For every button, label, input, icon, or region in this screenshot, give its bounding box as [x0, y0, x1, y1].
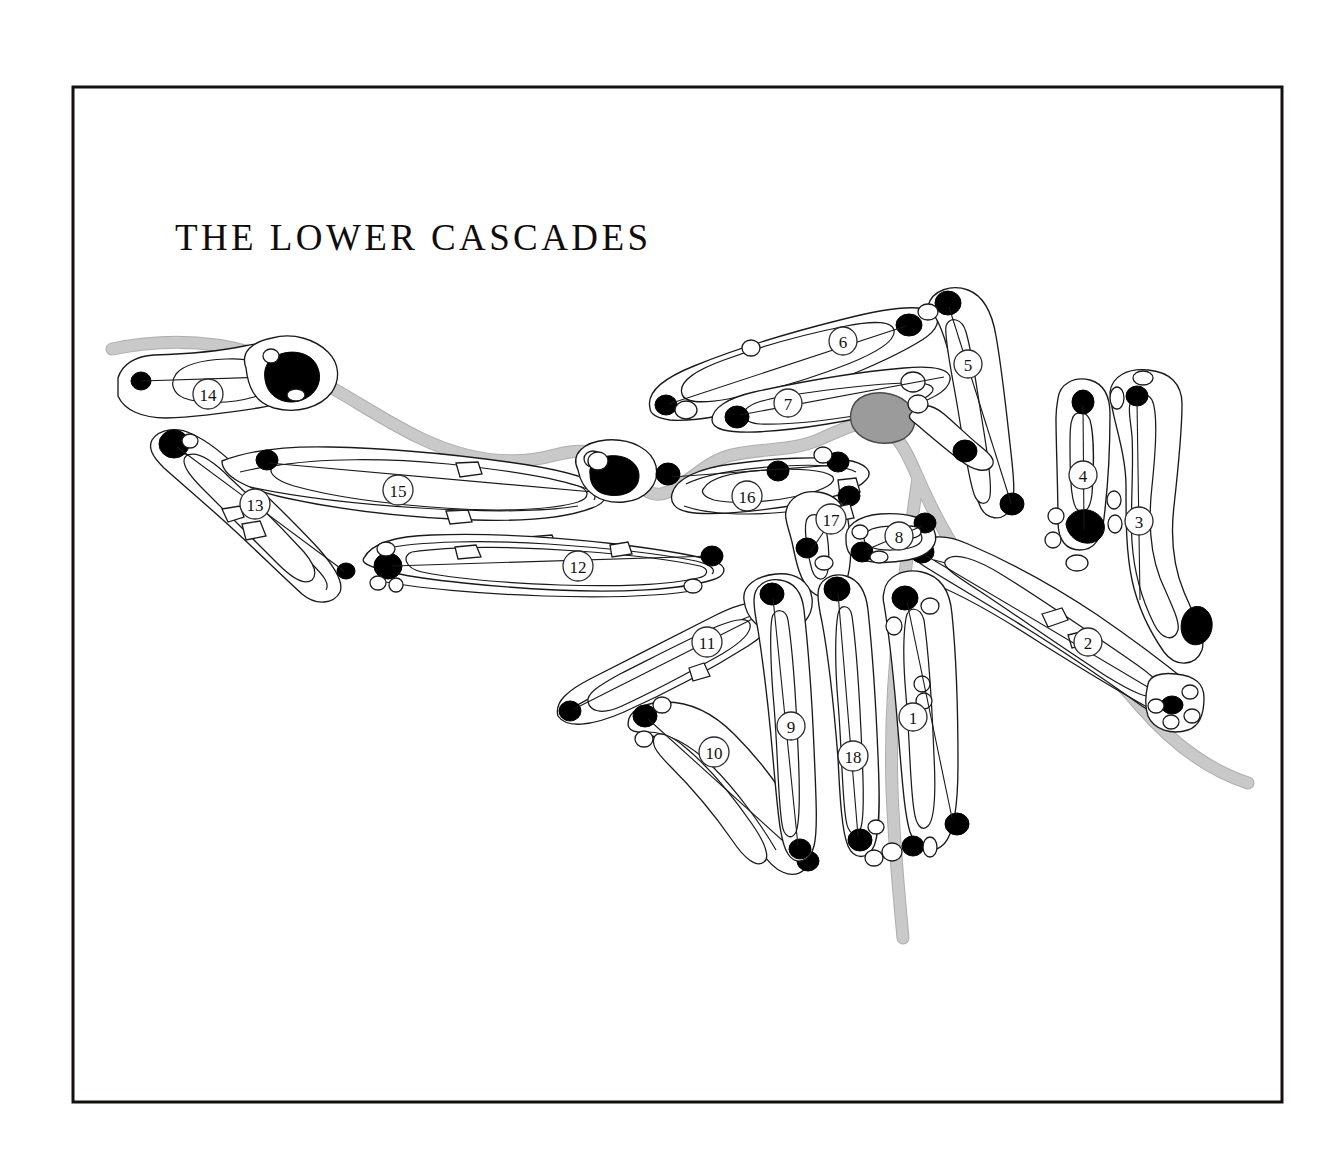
hole-marker-3[interactable]: 3: [1125, 507, 1153, 535]
hole-marker-label: 3: [1135, 513, 1144, 532]
hole-marker-4[interactable]: 4: [1069, 461, 1097, 489]
hole-marker-14[interactable]: 14: [193, 379, 223, 409]
hole-marker-label: 1: [909, 709, 918, 728]
hole-marker-label: 4: [1079, 467, 1088, 486]
golf-course-map: THE LOWER CASCADES: [0, 0, 1344, 1166]
bunker-dark: [838, 486, 860, 506]
hole-marker-label: 6: [839, 333, 848, 352]
hole-marker-label: 12: [570, 558, 587, 577]
bunker-dark: [725, 406, 749, 428]
hole-marker-6[interactable]: 6: [829, 327, 857, 355]
hole-marker-18[interactable]: 18: [838, 741, 868, 771]
hole-marker-2[interactable]: 2: [1074, 628, 1102, 656]
hole-marker-1[interactable]: 1: [899, 703, 927, 731]
hole-marker-11[interactable]: 11: [692, 627, 722, 657]
hole-marker-17[interactable]: 17: [816, 504, 846, 534]
bunker-dark: [892, 586, 918, 610]
hole-marker-12[interactable]: 12: [563, 551, 593, 581]
bunker-dark: [655, 395, 677, 415]
bunker-dark: [256, 450, 278, 470]
water-hazard-pond: [850, 393, 914, 443]
hole-marker-7[interactable]: 7: [774, 389, 802, 417]
hole-marker-label: 7: [784, 395, 793, 414]
bunker-dark: [935, 291, 961, 315]
hole-marker-9[interactable]: 9: [777, 712, 805, 740]
bunker-dark: [559, 701, 581, 721]
hole-marker-16[interactable]: 16: [732, 481, 762, 511]
hole-marker-label: 17: [823, 511, 841, 530]
hole-marker-10[interactable]: 10: [699, 737, 729, 767]
bunker-dark: [824, 577, 850, 601]
hole-marker-15[interactable]: 15: [383, 475, 413, 505]
hole-marker-label: 9: [787, 718, 796, 737]
hole-marker-8[interactable]: 8: [885, 522, 913, 550]
hole-marker-label: 2: [1084, 634, 1093, 653]
hole-marker-5[interactable]: 5: [954, 350, 982, 378]
hole-marker-13[interactable]: 13: [240, 489, 270, 519]
bunker-dark: [656, 463, 680, 485]
page-title: THE LOWER CASCADES: [175, 217, 651, 258]
hole-marker-label: 15: [390, 482, 407, 501]
hole-marker-label: 18: [845, 748, 862, 767]
hole-marker-label: 13: [247, 496, 264, 515]
hole-marker-label: 8: [895, 528, 904, 547]
bunker-dark: [760, 583, 784, 605]
hole-marker-label: 11: [699, 634, 715, 653]
hole-marker-label: 10: [706, 744, 723, 763]
hole-marker-label: 14: [200, 386, 218, 405]
hole-marker-label: 16: [739, 488, 756, 507]
hole-marker-label: 5: [964, 356, 973, 375]
